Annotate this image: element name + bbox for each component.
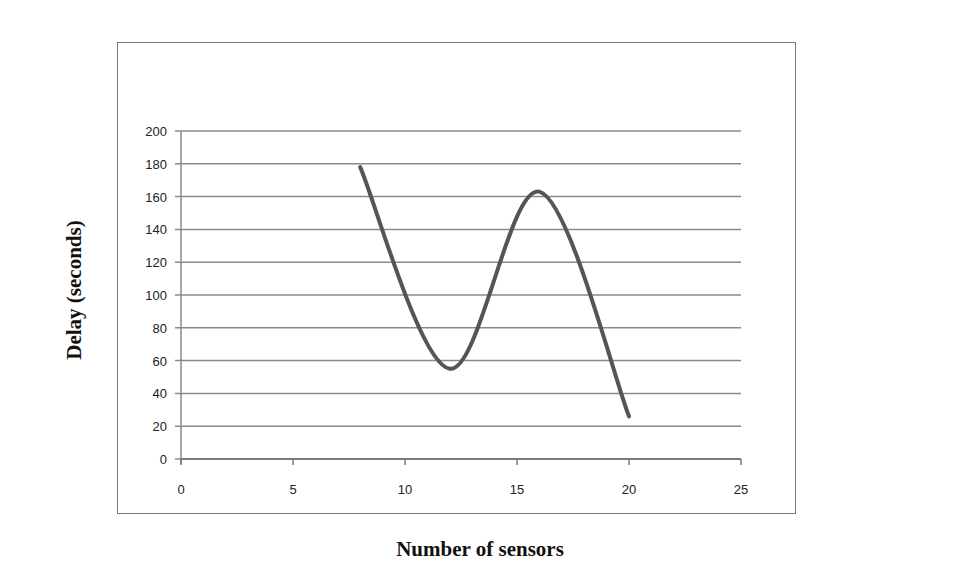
x-tick-label: 25 — [734, 482, 748, 497]
line-chart: 020406080100120140160180200 0510152025 — [0, 0, 959, 566]
y-tick-label: 80 — [153, 321, 167, 336]
y-tick-label: 200 — [145, 124, 167, 139]
x-axis-label: Number of sensors — [300, 537, 660, 562]
y-tick-label: 100 — [145, 288, 167, 303]
y-tick-label: 20 — [153, 419, 167, 434]
y-axis-ticks: 020406080100120140160180200 — [145, 124, 167, 467]
y-tick-label: 160 — [145, 190, 167, 205]
y-axis-label: Delay (seconds) — [44, 175, 104, 405]
x-tick-label: 20 — [622, 482, 636, 497]
x-tick-label: 10 — [398, 482, 412, 497]
y-tick-label: 0 — [160, 452, 167, 467]
x-tick-label: 5 — [289, 482, 296, 497]
x-axis-ticks: 0510152025 — [177, 459, 748, 497]
gridlines — [175, 131, 741, 459]
y-tick-label: 180 — [145, 157, 167, 172]
x-tick-label: 0 — [177, 482, 184, 497]
y-tick-label: 140 — [145, 222, 167, 237]
delay-series-line — [360, 167, 629, 416]
x-tick-label: 15 — [510, 482, 524, 497]
y-tick-label: 60 — [153, 354, 167, 369]
y-axis-label-text: Delay (seconds) — [62, 220, 87, 359]
y-tick-label: 40 — [153, 386, 167, 401]
axes — [181, 131, 741, 464]
y-tick-label: 120 — [145, 255, 167, 270]
